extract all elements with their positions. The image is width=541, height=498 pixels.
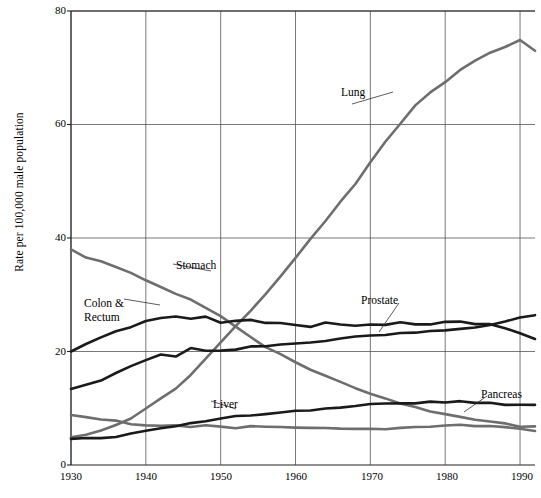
series-label-stomach: Stomach (176, 259, 216, 272)
chart-figure: Rate per 100,000 male population 80 60 4… (0, 0, 541, 498)
series-line-pancreas (71, 401, 535, 439)
series-label-lung: Lung (341, 86, 365, 99)
series-line-lung (71, 40, 535, 437)
series-line-stomach (71, 249, 535, 426)
series-label-liver: Liver (213, 398, 238, 411)
series-label-prostate: Prostate (361, 294, 398, 307)
annotation-leader-line (379, 303, 399, 332)
series-line-colon-rectum (71, 317, 535, 352)
plot-area (0, 0, 541, 498)
annotation-leader-line (124, 299, 160, 305)
series-label-colon-rectum-line1: Colon & (84, 297, 124, 310)
series-label-pancreas: Pancreas (481, 388, 522, 401)
series-label-colon-rectum-line2: Rectum (84, 311, 120, 324)
